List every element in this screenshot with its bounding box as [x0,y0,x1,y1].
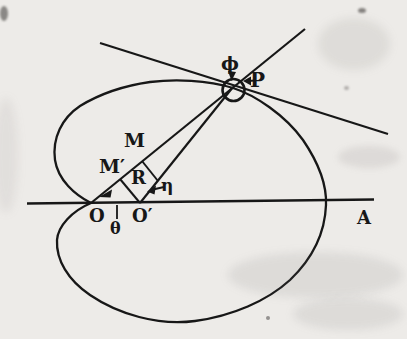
label-phi: ϕ [221,52,239,74]
label-p: P [250,68,265,92]
label-o-prime: O′ [132,205,153,226]
label-eta: η [161,175,173,195]
radius-line-o-prime-p [140,87,233,203]
label-theta: θ [110,219,121,238]
label-o: O [89,205,105,226]
axis-line-oa [27,200,374,204]
label-m-prime: M′ [99,155,125,177]
label-m: M [124,129,145,151]
label-r: R [131,167,147,188]
scanned-figure: ϕ P M M′ R η O θ O′ A [0,0,407,339]
label-a: A [356,207,372,228]
cardioid-diagram: ϕ P M M′ R η O θ O′ A [0,0,407,339]
